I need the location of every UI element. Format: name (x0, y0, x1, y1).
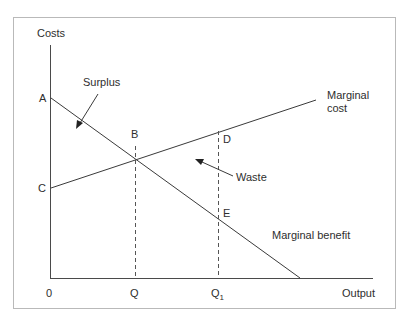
marginal-benefit-label: Marginal benefit (272, 229, 350, 241)
x-axis-label: Output (342, 287, 375, 299)
q1-tick-label: Q1 (211, 287, 224, 301)
q1-subscript: 1 (220, 293, 224, 302)
waste-label: Waste (236, 171, 267, 183)
marginal-cost-label-line1: Marginal (327, 89, 369, 102)
waste-arrow (202, 162, 233, 176)
surplus-arrow (80, 94, 98, 123)
point-e-label: E (223, 207, 230, 219)
q-tick-label: Q (130, 287, 139, 299)
point-b-label: B (131, 128, 138, 140)
surplus-arrowhead-icon (76, 120, 83, 129)
y-axis-label: Costs (37, 27, 65, 39)
point-c-label: C (38, 182, 46, 194)
marginal-cost-label-line2: cost (327, 102, 369, 115)
point-a-label: A (39, 92, 46, 104)
marginal-benefit-curve (51, 98, 300, 278)
surplus-label: Surplus (83, 76, 120, 88)
origin-label: 0 (46, 287, 52, 299)
diagram-canvas (0, 0, 407, 319)
marginal-cost-label: Marginal cost (327, 89, 369, 115)
point-d-label: D (223, 133, 231, 145)
marginal-cost-curve (51, 100, 316, 188)
q1-base: Q (211, 287, 220, 299)
